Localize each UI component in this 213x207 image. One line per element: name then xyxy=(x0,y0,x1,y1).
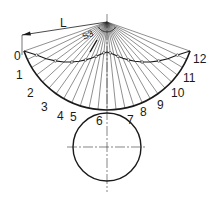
division-label-10: 10 xyxy=(171,86,185,100)
division-label-1: 1 xyxy=(16,68,23,82)
division-label-6: 6 xyxy=(96,114,103,128)
intersection-point xyxy=(127,59,130,62)
intersection-point xyxy=(84,59,87,62)
division-label-5: 5 xyxy=(70,110,77,124)
division-label-11: 11 xyxy=(183,71,196,85)
generator-line xyxy=(107,22,177,75)
division-label-8: 8 xyxy=(140,105,147,119)
division-label-4: 4 xyxy=(57,109,64,123)
generator-line xyxy=(37,22,107,75)
section-label-S3: S3 xyxy=(81,28,95,42)
development-diagram: L S3 0123456789101112 xyxy=(0,0,213,207)
generator-line xyxy=(107,22,187,59)
division-label-0: 0 xyxy=(14,49,21,63)
intersection-point xyxy=(176,54,179,57)
division-label-12: 12 xyxy=(193,52,207,66)
generator-line xyxy=(107,22,142,103)
intersection-point xyxy=(141,61,144,64)
division-label-2: 2 xyxy=(27,86,34,100)
intersection-point xyxy=(35,54,38,57)
division-label-9: 9 xyxy=(157,98,164,112)
dimension-label-L: L xyxy=(60,16,67,30)
division-label-3: 3 xyxy=(41,100,48,114)
generator-line xyxy=(27,22,107,59)
intersection-point xyxy=(117,55,120,58)
intersection-point xyxy=(54,60,57,63)
dimension-L: L xyxy=(22,16,107,55)
intersection-point xyxy=(71,61,74,64)
arrowhead-icon xyxy=(22,32,31,36)
division-label-7: 7 xyxy=(127,113,134,127)
intersection-point xyxy=(95,55,98,58)
intersection-point xyxy=(157,60,160,63)
intersection-point xyxy=(103,52,106,55)
intersection-point xyxy=(109,52,112,55)
